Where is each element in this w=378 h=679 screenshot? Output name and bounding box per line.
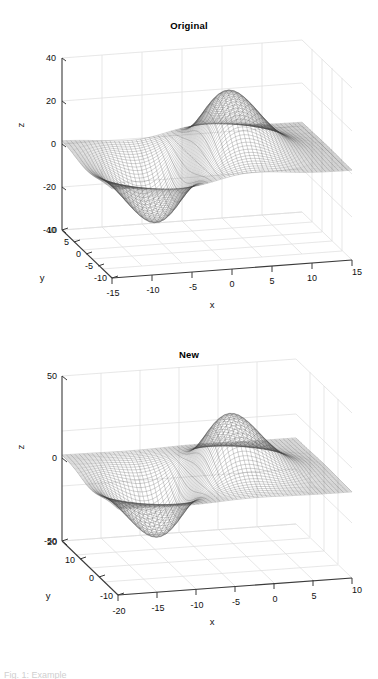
x-tick-label: 10 <box>307 273 317 283</box>
axis-lines-new <box>62 376 352 595</box>
z-tick-label: 20 <box>46 96 56 106</box>
x-tick-labels-original: -15 -10 -5 0 5 10 15 <box>106 267 362 298</box>
x-tick-labels-new: -20 -15 -10 -5 0 5 10 <box>112 585 362 616</box>
y-tick-label: 10 <box>65 555 75 565</box>
x-tick-label: -10 <box>190 600 203 610</box>
grid-back-wall <box>62 359 296 541</box>
z-tick-marks-new <box>62 376 67 545</box>
z-axis-label-new: z <box>15 444 26 449</box>
y-tick-label: -10 <box>94 273 107 283</box>
x-axis-label-original: x <box>210 299 215 310</box>
y-tick-label: 20 <box>47 537 57 547</box>
x-tick-label: -10 <box>146 285 159 295</box>
x-tick-label: -5 <box>232 597 240 607</box>
y-tick-labels-original: 10 5 0 -5 -10 <box>47 225 107 283</box>
x-tick-label: -15 <box>106 288 119 298</box>
y-tick-marks-new <box>62 539 124 595</box>
plot-panel-original: Original <box>0 0 378 340</box>
z-axis-label-original: z <box>15 122 26 127</box>
z-tick-labels-new: 50 0 -50 <box>44 371 57 546</box>
grid-floor <box>62 524 352 595</box>
y-tick-label: -5 <box>85 261 93 271</box>
x-tick-label: 10 <box>352 585 362 595</box>
z-tick-labels-original: 40 20 0 -20 -40 <box>43 53 56 235</box>
x-tick-label: -20 <box>112 606 125 616</box>
grid-floor <box>62 212 342 269</box>
y-axis-label-new: y <box>46 590 51 601</box>
z-tick-label: 0 <box>51 139 56 149</box>
surface-mesh-original <box>62 90 352 223</box>
x-tick-label: 5 <box>311 591 316 601</box>
x-tick-label: -5 <box>189 282 197 292</box>
z-tick-label: 50 <box>47 371 57 381</box>
axes-new: 50 0 -50 z 20 10 0 -10 y <box>0 337 378 677</box>
x-axis-label-new: x <box>210 616 215 627</box>
y-tick-label: 0 <box>76 249 81 259</box>
x-tick-label: 15 <box>352 267 362 277</box>
x-tick-label: -15 <box>151 603 164 613</box>
z-tick-label: 0 <box>52 453 57 463</box>
z-tick-label: -20 <box>43 182 56 192</box>
y-axis-label-original: y <box>40 272 45 283</box>
y-tick-labels-new: 20 10 0 -10 <box>47 537 113 601</box>
z-tick-marks-original <box>62 58 66 233</box>
y-tick-label: 10 <box>47 225 57 235</box>
y-tick-label: 0 <box>89 573 94 583</box>
y-tick-label: -10 <box>100 591 113 601</box>
x-tick-label: 0 <box>229 279 234 289</box>
z-tick-label: 40 <box>46 53 56 63</box>
figure-caption-partial: Fig. 1: Example <box>4 670 244 679</box>
x-tick-label: 0 <box>272 594 277 604</box>
y-tick-label: 5 <box>64 237 69 247</box>
axes-original: 40 20 0 -20 -40 z 10 5 0 -5 -10 <box>0 0 378 340</box>
plot-panel-new: New <box>0 337 378 677</box>
x-tick-label: 5 <box>269 276 274 286</box>
